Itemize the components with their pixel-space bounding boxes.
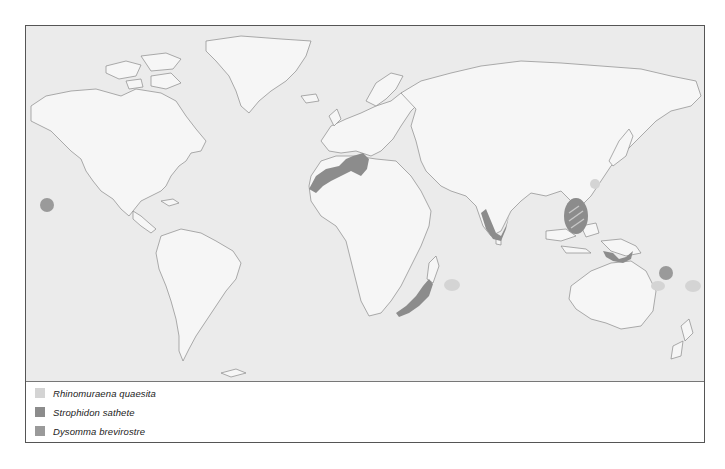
greenland [206, 36, 311, 113]
region-rhinomuraena-newcaledonia [651, 281, 665, 291]
land-masses [31, 36, 701, 377]
legend-item-strophidon: Strophidon sathete [35, 403, 135, 421]
region-dysomma-hawaii [40, 198, 54, 212]
legend-label: Strophidon sathete [53, 407, 135, 418]
region-rhinomuraena-mascarene [444, 279, 460, 291]
legend-item-dysomma: Dysomma brevirostre [35, 422, 145, 440]
south-america [156, 229, 241, 361]
legend-label: Rhinomuraena quaesita [53, 388, 156, 399]
region-rhinomuraena-taiwan [590, 179, 600, 189]
region-dysomma-solomon [659, 266, 673, 280]
legend: Rhinomuraena quaesita Strophidon sathete… [26, 382, 704, 442]
legend-swatch [35, 407, 45, 417]
asia [401, 61, 701, 236]
world-map-svg [26, 26, 704, 381]
north-america [31, 89, 206, 216]
map-figure: Rhinomuraena quaesita Strophidon sathete… [25, 25, 705, 443]
region-rhinomuraena-fiji [685, 280, 701, 292]
legend-swatch [35, 388, 45, 398]
australia [569, 261, 656, 329]
legend-item-rhinomuraena: Rhinomuraena quaesita [35, 384, 156, 402]
world-map [26, 26, 704, 382]
legend-swatch [35, 426, 45, 436]
legend-label: Dysomma brevirostre [53, 426, 145, 437]
